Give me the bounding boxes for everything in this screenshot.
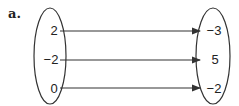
- domain-value: −2: [44, 52, 59, 67]
- range-value: −2: [207, 81, 222, 96]
- range-value: 5: [211, 52, 218, 67]
- domain-value: 2: [50, 23, 57, 38]
- domain-value: 0: [50, 81, 57, 96]
- mapping-diagram: a. 2 −2 0 −3 5 −2: [0, 0, 239, 106]
- range-value: −3: [207, 23, 222, 38]
- part-label: a.: [8, 6, 21, 21]
